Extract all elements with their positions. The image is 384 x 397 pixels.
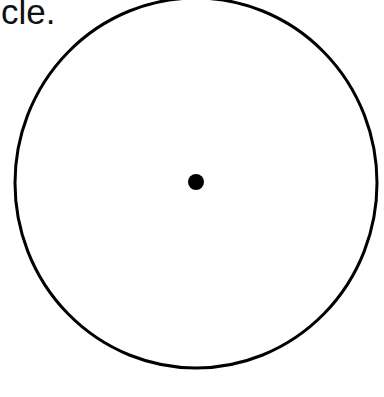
circle-diagram: [0, 0, 384, 397]
center-dot: [188, 174, 204, 190]
